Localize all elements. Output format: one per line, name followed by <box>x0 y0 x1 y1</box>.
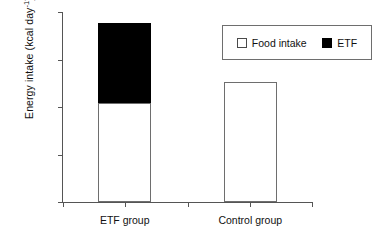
y-tick-1000 <box>58 107 63 108</box>
legend-item-food-intake: Food intake <box>237 37 307 49</box>
legend-swatch-etf <box>322 38 332 48</box>
bar-segment-food-intake-0 <box>98 103 151 202</box>
y-tick-1500 <box>58 60 63 61</box>
bar-etf-group <box>98 12 151 202</box>
chart-legend: Food intake ETF <box>222 25 372 60</box>
x-tick-label-1: Control group <box>195 214 305 226</box>
bar-segment-food-intake-1 <box>224 82 277 202</box>
legend-label-etf: ETF <box>337 37 357 49</box>
y-tick-500 <box>58 155 63 156</box>
y-axis-title-end: ) <box>23 0 35 1</box>
y-axis-title: Energy intake (kcal day-1) <box>23 0 35 143</box>
x-tick-boundary-1 <box>188 202 189 207</box>
x-tick-1 <box>250 202 251 207</box>
y-tick-2000 <box>58 12 63 13</box>
x-tick-boundary-2 <box>312 202 313 207</box>
legend-item-etf: ETF <box>322 37 357 49</box>
plot-area: 0500100015002000 ETF groupControl group … <box>62 12 313 202</box>
bar-segment-etf-0 <box>98 23 151 103</box>
y-axis-title-exponent: -1 <box>22 1 31 8</box>
x-tick-0 <box>125 202 126 207</box>
legend-label-food-intake: Food intake <box>252 37 307 49</box>
y-axis-title-main: Energy intake (kcal day <box>23 8 35 119</box>
x-tick-boundary-0 <box>63 202 64 207</box>
legend-swatch-food-intake <box>237 38 247 48</box>
x-tick-label-0: ETF group <box>70 214 180 226</box>
